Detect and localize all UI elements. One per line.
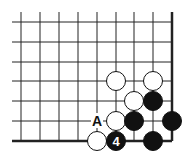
black-stone bbox=[144, 132, 163, 151]
black-stone bbox=[125, 112, 144, 131]
black-stone bbox=[144, 92, 163, 111]
white-stone bbox=[125, 92, 144, 111]
white-stone bbox=[107, 72, 126, 91]
white-stone bbox=[88, 132, 107, 151]
point-label-a: A bbox=[92, 113, 102, 129]
black-stone bbox=[163, 112, 182, 131]
white-stone bbox=[144, 72, 163, 91]
white-stone bbox=[107, 112, 126, 131]
move-number-label: 4 bbox=[112, 134, 120, 149]
go-board-diagram: A 4 bbox=[0, 0, 190, 155]
board-markers: A bbox=[91, 113, 103, 129]
